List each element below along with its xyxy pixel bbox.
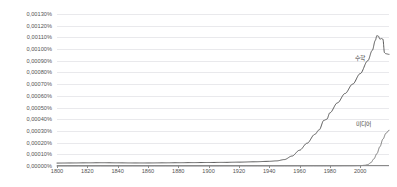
y-tick-label: 0,00000% [26, 163, 52, 169]
x-tick-label: 1900 [202, 168, 214, 175]
series-line-수학 [57, 36, 389, 163]
x-tick-label: 1840 [111, 168, 123, 175]
y-tick-label: 0,00020% [26, 140, 52, 146]
series-label-math: 수학 [355, 55, 365, 62]
x-tick-label: 1920 [233, 168, 245, 175]
y-tick-label: 0,00010% [26, 151, 52, 157]
x-tick-label: 1820 [81, 168, 93, 175]
x-tick-label: 1980 [324, 168, 336, 175]
series-layer [57, 14, 389, 166]
ngram-chart: 0,00130%0,00120%0,00110%0,00100%0,00090%… [0, 0, 397, 187]
x-tick-label: 1880 [172, 168, 184, 175]
y-tick-label: 0,00050% [26, 105, 52, 111]
y-tick-label: 0,00130% [26, 11, 52, 17]
x-tick-label: 1860 [142, 168, 154, 175]
y-tick-label: 0,00110% [27, 34, 52, 40]
x-tick-label: 1940 [263, 168, 275, 175]
y-tick-label: 0,00040% [26, 116, 52, 122]
y-axis-labels: 0,00130%0,00120%0,00110%0,00100%0,00090%… [0, 14, 54, 166]
x-axis-labels: 1800182018401860188019001920194019601980… [57, 168, 389, 180]
y-tick-label: 0,00080% [26, 69, 52, 75]
x-tick-label: 2000 [354, 168, 366, 175]
y-tick-label: 0,00100% [26, 46, 52, 52]
x-tick-label: 1800 [51, 168, 63, 175]
y-tick-label: 0,00070% [26, 81, 52, 87]
plot-area [57, 14, 389, 166]
y-tick-label: 0,00120% [26, 23, 52, 29]
x-tick-label: 1960 [293, 168, 305, 175]
y-tick-label: 0,00090% [26, 58, 52, 64]
y-tick-label: 0,00030% [26, 128, 52, 134]
series-label-media: 미디어 [356, 121, 371, 128]
series-line-미디어 [57, 130, 389, 166]
y-tick-label: 0,00060% [26, 93, 52, 99]
